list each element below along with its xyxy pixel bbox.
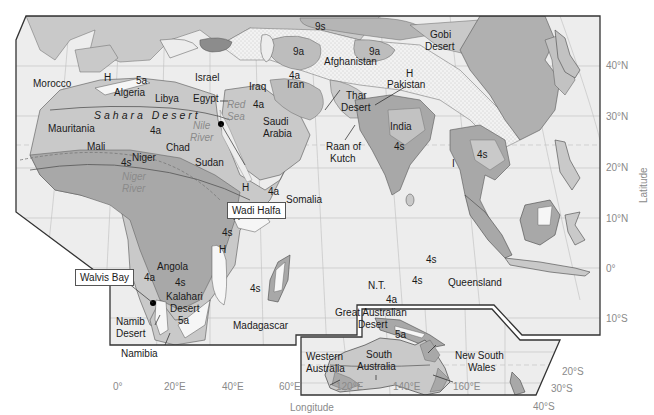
y-tick-40s: 40°S — [533, 401, 555, 412]
x-tick-0: 0° — [113, 381, 123, 392]
x-tick-120e: 120°E — [336, 381, 363, 392]
label-niger-river-1: Niger — [122, 172, 146, 182]
label-thar-2: Desert — [341, 103, 370, 113]
label-h-pakistan: H — [406, 69, 413, 79]
label-nt: N.T. — [368, 281, 386, 291]
x-tick-60e: 60°E — [279, 381, 301, 392]
label-nsw-1: New South — [455, 351, 504, 361]
label-sahara-desert: Sahara Desert — [94, 110, 201, 121]
label-4a-arabia: 4a — [253, 100, 264, 110]
label-iraq: Iraq — [249, 82, 266, 92]
label-somalia: Somalia — [286, 195, 322, 205]
y-tick-40n: 40°N — [606, 60, 628, 71]
label-libya: Libya — [155, 94, 179, 104]
label-angola: Angola — [157, 262, 188, 272]
label-morocco: Morocco — [33, 79, 71, 89]
y-axis-title: Latitude — [638, 167, 649, 203]
label-niger-river-2: River — [122, 184, 145, 194]
label-sa-1: South — [366, 350, 392, 360]
label-h-eastafrica-2: H — [219, 245, 226, 255]
label-raan-1: Raan of — [326, 142, 361, 152]
label-4a-aus: 4a — [386, 295, 397, 305]
label-4s-angola: 4s — [175, 278, 186, 288]
label-afghanistan: Afghanistan — [324, 57, 377, 67]
label-niger: Niger — [132, 153, 156, 163]
label-india: India — [390, 122, 412, 132]
label-nile-2: River — [190, 133, 213, 143]
label-h-ethiopia: H — [242, 183, 249, 193]
label-red-sea-1: Red — [227, 100, 245, 110]
label-4s-qld: 4s — [412, 276, 423, 286]
label-4s-madagascar: 4s — [250, 284, 261, 294]
label-gobi-2: Desert — [425, 42, 454, 52]
label-kalahari-2: Desert — [170, 304, 199, 314]
label-gad-2: Desert — [358, 320, 387, 330]
label-namib-2: Desert — [116, 329, 145, 339]
x-tick-40e: 40°E — [222, 381, 244, 392]
label-4s-niger: 4s — [121, 158, 132, 168]
x-tick-160e: 160°E — [453, 381, 480, 392]
label-mauritania: Mauritania — [48, 124, 95, 134]
label-chad: Chad — [166, 143, 190, 153]
callout-walvis-bay: Walvis Bay — [75, 269, 134, 286]
label-nsw-2: Wales — [468, 363, 495, 373]
label-israel: Israel — [195, 73, 219, 83]
label-4a-somalia: 4a — [268, 187, 279, 197]
x-tick-140e: 140°E — [393, 381, 420, 392]
label-egypt: Egypt — [193, 94, 219, 104]
label-h-morocco: H — [104, 73, 111, 83]
label-4a-angola: 4a — [144, 273, 155, 283]
label-saudi-1: Saudi — [263, 117, 289, 127]
label-i-marker: I — [452, 159, 455, 169]
y-tick-10s: 10°S — [606, 313, 628, 324]
y-tick-20n: 20°N — [606, 162, 628, 173]
label-saudi-2: Arabia — [263, 129, 292, 139]
label-5a-kalahari: 5a — [178, 316, 189, 326]
label-namib-1: Namib — [116, 317, 145, 327]
x-tick-20e: 20°E — [164, 381, 186, 392]
y-tick-0: 0° — [606, 263, 616, 274]
label-sudan: Sudan — [195, 158, 224, 168]
label-algeria: Algeria — [114, 88, 145, 98]
label-4s-eastafrica: 4s — [222, 228, 233, 238]
label-sa-2: Australia — [357, 362, 396, 372]
label-wa-1: Western — [306, 352, 343, 362]
label-9s: 9s — [315, 22, 326, 32]
label-4s-india: 4s — [394, 142, 405, 152]
x-axis-title: Longitude — [290, 402, 334, 413]
label-kalahari-1: Kalahari — [166, 292, 203, 302]
label-namibia: Namibia — [121, 349, 158, 359]
label-raan-2: Kutch — [330, 154, 356, 164]
y-tick-30s: 30°S — [551, 383, 573, 394]
label-mali: Mali — [87, 142, 105, 152]
label-pakistan: Pakistan — [387, 80, 425, 90]
callout-wadi-halfa: Wadi Halfa — [227, 202, 286, 219]
label-gad-1: Great Australian — [335, 308, 407, 318]
label-gobi-1: Gobi — [430, 30, 451, 40]
label-queensland: Queensland — [448, 278, 502, 288]
y-tick-20s: 20°S — [562, 366, 584, 377]
label-madagascar: Madagascar — [233, 321, 288, 331]
label-4a-sahara: 4a — [150, 126, 161, 136]
y-tick-10n: 10°N — [606, 213, 628, 224]
label-nile-1: Nile — [193, 121, 210, 131]
label-4s-indochina: 4s — [477, 150, 488, 160]
label-5a-aus: 5a — [395, 330, 406, 340]
label-iran: Iran — [287, 80, 304, 90]
y-tick-30n: 30°N — [606, 111, 628, 122]
label-wa-2: Australia — [306, 364, 345, 374]
label-thar-1: Thar — [346, 91, 367, 101]
label-9a-west: 9a — [293, 47, 304, 57]
label-4s-png: 4s — [426, 255, 437, 265]
label-5a-algeria: 5a — [136, 76, 147, 86]
label-red-sea-2: Sea — [227, 112, 245, 122]
